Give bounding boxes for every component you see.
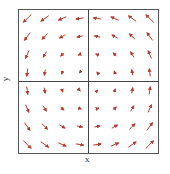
- x-axis-label: x: [85, 154, 90, 164]
- vector-arrow: [58, 17, 66, 20]
- vector-arrow: [79, 72, 80, 73]
- vector-arrow: [62, 71, 63, 74]
- vector-arrow: [76, 144, 84, 145]
- vector-arrow: [129, 124, 135, 130]
- vector-arrow: [27, 69, 28, 77]
- vector-arrow: [41, 16, 49, 22]
- vector-arrow: [26, 51, 29, 59]
- vector-arrow: [112, 35, 118, 38]
- vector-arrow: [146, 141, 154, 149]
- vector-arrow: [96, 108, 99, 109]
- vector-arrow: [149, 87, 150, 95]
- vector-arrow: [147, 123, 153, 131]
- vector-arrow: [111, 143, 119, 146]
- vector-arrow: [77, 36, 83, 37]
- vector-arrow: [41, 142, 49, 148]
- vector-arrow: [58, 143, 66, 146]
- vector-arrow: [97, 90, 98, 91]
- vector-arrow: [62, 89, 63, 92]
- vector-arrow: [114, 71, 115, 74]
- vector-arrow: [93, 144, 101, 145]
- vector-arrow: [42, 124, 48, 130]
- vector-arrow: [113, 107, 116, 110]
- vector-arrow: [42, 34, 48, 40]
- vector-arrow: [23, 15, 31, 23]
- vector-arrow: [131, 52, 134, 58]
- vector-arrow: [128, 142, 136, 148]
- quiver-plot: [0, 0, 170, 174]
- vector-arrow: [129, 34, 135, 40]
- vector-arrow: [94, 126, 100, 127]
- vector-arrow: [59, 125, 65, 128]
- vector-arrow: [44, 70, 45, 76]
- vector-arrow: [97, 72, 98, 73]
- vector-arrow: [111, 17, 119, 20]
- vector-arrow: [61, 53, 64, 56]
- vector-arrow: [76, 18, 84, 19]
- vector-arrow: [148, 51, 151, 59]
- vector-arrow: [59, 35, 65, 38]
- vector-arrow: [43, 52, 46, 58]
- vector-arrow: [77, 126, 83, 127]
- vector-arrow: [43, 106, 46, 112]
- vector-arrow: [113, 53, 116, 56]
- vector-arrow: [93, 18, 101, 19]
- vector-arrow: [78, 54, 81, 55]
- vector-arrow: [27, 87, 28, 95]
- vector-arrow: [96, 54, 99, 55]
- vector-arrow: [94, 36, 100, 37]
- vector-arrow: [128, 16, 136, 22]
- vector-arrow: [146, 15, 154, 23]
- vector-arrow: [61, 107, 64, 110]
- vector-arrow: [24, 33, 30, 41]
- vector-arrow: [112, 125, 118, 128]
- vector-arrow: [149, 69, 150, 77]
- vector-arrow: [23, 141, 31, 149]
- vector-arrow: [78, 108, 81, 109]
- vector-arrow: [147, 33, 153, 41]
- vector-arrow: [132, 88, 133, 94]
- vector-arrow: [79, 90, 80, 91]
- vector-arrow: [26, 105, 29, 113]
- vector-arrow: [132, 70, 133, 76]
- y-axis-label: y: [0, 77, 10, 82]
- vector-arrow: [44, 88, 45, 94]
- vector-arrow: [148, 105, 151, 113]
- vector-arrow: [114, 89, 115, 92]
- vector-arrow: [131, 106, 134, 112]
- vector-arrow: [24, 123, 30, 131]
